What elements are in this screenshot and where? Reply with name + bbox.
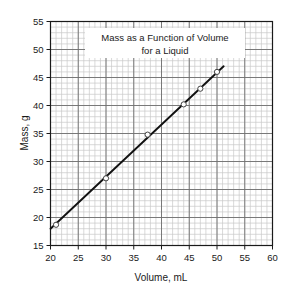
y-tick-label: 55 <box>33 16 44 27</box>
y-tick-labels: 152025303540455055 <box>33 16 44 251</box>
data-point <box>181 102 186 107</box>
chart-figure: 202530354045505560 152025303540455055 Ma… <box>0 0 293 296</box>
y-tick-label: 35 <box>33 128 44 139</box>
x-tick-label: 30 <box>101 252 112 263</box>
x-axis-label: Volume, mL <box>135 272 188 283</box>
x-tick-label: 55 <box>239 252 250 263</box>
x-tick-label: 35 <box>128 252 139 263</box>
x-tick-label: 50 <box>212 252 223 263</box>
y-tick-label: 40 <box>33 100 44 111</box>
data-point <box>198 86 203 91</box>
y-tick-label: 25 <box>33 184 44 195</box>
x-tick-label: 40 <box>156 252 167 263</box>
x-tick-label: 20 <box>45 252 56 263</box>
y-axis-label: Mass, g <box>19 115 30 150</box>
x-tick-label: 60 <box>267 252 278 263</box>
y-tick-label: 30 <box>33 156 44 167</box>
data-point <box>53 222 58 227</box>
x-tick-labels: 202530354045505560 <box>45 252 278 263</box>
x-tick-label: 25 <box>73 252 84 263</box>
y-tick-label: 15 <box>33 240 44 251</box>
x-tick-label: 45 <box>184 252 195 263</box>
data-point <box>214 69 219 74</box>
chart-title-group: Mass as a Function of Volumefor a Liquid <box>85 28 245 58</box>
data-point <box>103 176 108 181</box>
chart-title-line2: for a Liquid <box>141 45 188 56</box>
data-point <box>145 132 150 137</box>
y-tick-label: 20 <box>33 212 44 223</box>
y-tick-label: 45 <box>33 72 44 83</box>
chart-title-line1: Mass as a Function of Volume <box>101 32 228 43</box>
mass-volume-chart: 202530354045505560 152025303540455055 Ma… <box>0 0 293 296</box>
y-tick-label: 50 <box>33 44 44 55</box>
